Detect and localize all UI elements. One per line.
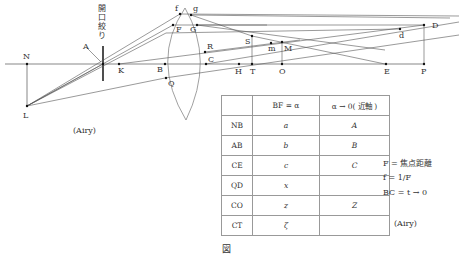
row-label: NB (222, 116, 253, 136)
point-label-B: B (157, 65, 163, 74)
row-label: QD (222, 176, 253, 196)
figure-caption: 図 (222, 242, 231, 255)
table-header: BF = α (253, 96, 320, 116)
point-label-f: f (175, 4, 179, 13)
row-general: a (253, 116, 320, 136)
point-label-m: m (268, 44, 276, 53)
table-row: CT ζ (222, 216, 390, 236)
point-label-g: g (193, 4, 198, 13)
row-label: CT (222, 216, 253, 236)
row-paraxial (320, 216, 390, 236)
row-paraxial: Z (320, 196, 390, 216)
note-power: f = 1/F (383, 173, 411, 182)
aperture-label-2: 口 (98, 13, 106, 22)
point-label-P: P (421, 67, 427, 76)
point-label-T: T (250, 67, 256, 76)
table-row: QD x (222, 176, 390, 196)
row-label: CO (222, 196, 253, 216)
aperture-label-1: 開 (98, 4, 106, 13)
table-row: CE c C (222, 156, 390, 176)
source-citation-right: (Airy) (394, 219, 417, 228)
variable-table: BF = α α → 0( 近軸 ) NB a A AB b B CE c C … (221, 95, 390, 236)
row-label: AB (222, 136, 253, 156)
table-header (222, 96, 253, 116)
table-header: α → 0( 近軸 ) (320, 96, 390, 116)
point-label-d: d (399, 31, 404, 40)
row-general: x (253, 176, 320, 196)
table-row: NB a A (222, 116, 390, 136)
row-general: ζ (253, 216, 320, 236)
point-label-Q: Q (168, 79, 175, 88)
point-label-D: D (432, 21, 438, 30)
table-header-row: BF = α α → 0( 近軸 ) (222, 96, 390, 116)
pointer-A (87, 48, 101, 62)
source-citation-left: (Airy) (73, 126, 96, 135)
point-label-N: N (23, 52, 30, 61)
point-label-H: H (235, 67, 242, 76)
row-paraxial: C (320, 156, 390, 176)
point-label-F: F (176, 25, 182, 34)
table-row: CO z Z (222, 196, 390, 216)
point-label-R: R (207, 42, 214, 51)
note-thickness: BC = t → 0 (383, 188, 427, 197)
point-label-E: E (384, 67, 390, 76)
rays (27, 14, 459, 106)
aperture-label-3: 絞 (98, 21, 106, 31)
aperture-label-4: り (98, 31, 106, 40)
point-label-A: A (82, 42, 89, 51)
row-paraxial: B (320, 136, 390, 156)
point-label-C: C (208, 55, 214, 64)
point-label-L: L (23, 111, 29, 120)
row-general: b (253, 136, 320, 156)
point-label-K: K (118, 66, 125, 75)
table-row: AB b B (222, 136, 390, 156)
point-label-G: G (190, 25, 196, 34)
note-focal-length: F = 焦点距離 (383, 157, 432, 168)
row-general: z (253, 196, 320, 216)
point-label-S: S (245, 37, 250, 46)
row-paraxial (320, 176, 390, 196)
row-general: c (253, 156, 320, 176)
row-paraxial: A (320, 116, 390, 136)
row-label: CE (222, 156, 253, 176)
point-label-M: M (284, 44, 292, 53)
point-label-O: O (279, 67, 286, 76)
